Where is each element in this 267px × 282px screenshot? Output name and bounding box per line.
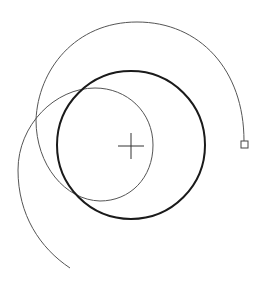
drawing-canvas[interactable] bbox=[0, 0, 267, 282]
end-handle[interactable] bbox=[241, 141, 248, 148]
center-crosshair-icon bbox=[118, 133, 144, 159]
